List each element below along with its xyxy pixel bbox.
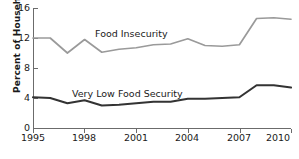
y-tick-marks	[34, 9, 39, 99]
x-tick-label-1998: 1998	[64, 133, 104, 143]
x-tick-label-2004: 2004	[167, 133, 207, 143]
y-tick-label-16: 16	[8, 3, 30, 12]
x-tick-label-2010: 2010	[258, 133, 298, 143]
y-tick-label-8: 8	[8, 63, 30, 72]
x-tick-label-2007: 2007	[219, 133, 259, 143]
y-tick-label-4: 4	[8, 93, 30, 102]
y-tick-label-12: 12	[8, 33, 30, 42]
plot-area	[33, 8, 291, 128]
y-axis-title: Percent of Households	[12, 0, 22, 93]
chart-svg	[33, 8, 291, 128]
food-insecurity-label: Food Insecurity	[95, 28, 168, 39]
food-insecurity-line-chart: Percent of Households 16 12 8 4 0 1995 1…	[0, 0, 299, 159]
x-tick-label-1995: 1995	[13, 133, 53, 143]
x-tick-label-2001: 2001	[116, 133, 156, 143]
y-tick-label-0: 0	[8, 123, 30, 132]
very-low-food-security-label: Very Low Food Security	[72, 88, 183, 99]
